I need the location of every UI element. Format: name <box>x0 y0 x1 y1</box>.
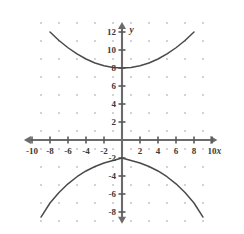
grid-dot <box>166 58 168 60</box>
grid-dot <box>112 220 114 222</box>
grid-dot <box>184 220 186 222</box>
grid-dot <box>184 58 186 60</box>
x-tick-label: 2 <box>138 146 143 156</box>
grid-dot <box>202 166 204 168</box>
grid-dot <box>166 112 168 114</box>
grid-dot <box>166 94 168 96</box>
grid-dot <box>112 148 114 150</box>
x-tick-label: -6 <box>64 146 72 156</box>
grid-dot <box>166 22 168 24</box>
grid-dot <box>112 184 114 186</box>
coordinate-graph: -10-8-6-4-224681024681012-2-4-6-8xy <box>0 0 244 234</box>
grid-dot <box>148 184 150 186</box>
grid-dot <box>130 148 132 150</box>
y-axis-label: y <box>129 25 135 35</box>
grid-dot <box>58 130 60 132</box>
grid-dot <box>148 76 150 78</box>
x-tick-label: 8 <box>192 146 197 156</box>
grid-dot <box>166 166 168 168</box>
y-tick-label: 2 <box>112 117 117 127</box>
grid-dot <box>148 148 150 150</box>
grid-dot <box>76 94 78 96</box>
grid-dot <box>94 40 96 42</box>
grid-dot <box>112 94 114 96</box>
grid-dot <box>202 58 204 60</box>
x-tick-label: -10 <box>26 146 38 156</box>
grid-dot <box>166 130 168 132</box>
y-tick-label: -2 <box>109 153 117 163</box>
grid-dot <box>202 148 204 150</box>
grid-dot <box>202 184 204 186</box>
y-tick-label: 6 <box>112 81 117 91</box>
grid-dot <box>184 112 186 114</box>
grid-dot <box>40 202 42 204</box>
grid-dot <box>202 202 204 204</box>
grid-dot <box>76 148 78 150</box>
grid-dot <box>130 76 132 78</box>
grid-dot <box>148 58 150 60</box>
grid-dot <box>76 112 78 114</box>
grid-dot <box>202 94 204 96</box>
grid-dot <box>40 76 42 78</box>
grid-dot <box>184 202 186 204</box>
grid-dot <box>184 184 186 186</box>
grid-dot <box>40 148 42 150</box>
grid-dot <box>94 112 96 114</box>
x-axis-label: x <box>215 146 221 156</box>
grid-dot <box>112 58 114 60</box>
y-tick-label: -4 <box>109 171 117 181</box>
y-tick-label: 8 <box>112 63 117 73</box>
grid-dot <box>166 148 168 150</box>
x-tick-label: 4 <box>156 146 161 156</box>
grid-dot <box>130 202 132 204</box>
grid-dot <box>58 112 60 114</box>
grid-dot <box>112 40 114 42</box>
grid-dot <box>148 202 150 204</box>
grid-dot <box>184 76 186 78</box>
grid-dot <box>130 220 132 222</box>
grid-dot <box>202 220 204 222</box>
grid-dot <box>76 40 78 42</box>
grid-dot <box>184 166 186 168</box>
grid-dot <box>184 148 186 150</box>
grid-dot <box>130 166 132 168</box>
grid-dot <box>184 22 186 24</box>
grid-dot <box>76 184 78 186</box>
y-axis-arrow-top <box>118 22 126 29</box>
grid-dot <box>112 76 114 78</box>
grid-dot <box>130 58 132 60</box>
grid-dot <box>94 130 96 132</box>
grid-dot <box>76 22 78 24</box>
grid-dot <box>148 22 150 24</box>
grid-dot <box>76 202 78 204</box>
grid-dot <box>58 166 60 168</box>
grid-dot <box>58 202 60 204</box>
grid-dot <box>130 184 132 186</box>
grid-dot <box>94 148 96 150</box>
grid-dot <box>130 130 132 132</box>
grid-dot <box>76 166 78 168</box>
y-axis-arrow-bottom <box>118 217 126 224</box>
grid-dot <box>130 112 132 114</box>
grid-dot <box>58 184 60 186</box>
x-axis-arrow-left <box>24 136 31 144</box>
x-tick-label: -2 <box>100 146 108 156</box>
grid-dot <box>148 112 150 114</box>
grid-dot <box>40 58 42 60</box>
grid-dot <box>94 184 96 186</box>
x-tick-label: -4 <box>82 146 90 156</box>
grid-dot <box>112 166 114 168</box>
grid-dot <box>130 94 132 96</box>
grid-dot <box>166 202 168 204</box>
grid-dot <box>202 76 204 78</box>
y-tick-label: -6 <box>109 189 117 199</box>
grid-dot <box>166 184 168 186</box>
grid-dot <box>94 220 96 222</box>
y-tick-label: 4 <box>112 99 117 109</box>
grid-dot <box>76 220 78 222</box>
grid-dot <box>40 220 42 222</box>
grid-dot <box>166 220 168 222</box>
grid-dot <box>58 58 60 60</box>
grid-dot <box>112 130 114 132</box>
grid-dot <box>112 202 114 204</box>
